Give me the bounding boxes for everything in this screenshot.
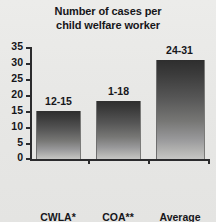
bar-label-coa-standard: 1-18: [91, 85, 146, 97]
x-axis-tick-1: [88, 159, 90, 164]
y-axis-tick-10: 10: [26, 127, 31, 129]
y-axis-tick-0: 0: [26, 158, 31, 160]
y-axis-tick-label-20: 20: [11, 88, 23, 100]
y-axis-tick-label-5: 5: [17, 136, 23, 148]
x-axis-tick-2: [148, 159, 150, 164]
y-axis-tick-25: 25: [26, 79, 31, 81]
y-axis-tick-label-30: 30: [11, 56, 23, 68]
bar-cwla-standard[interactable]: [36, 111, 81, 159]
chart-title-line-1: Number of cases per: [0, 4, 216, 18]
y-axis-tick-30: 30: [26, 63, 31, 65]
chart-title-line-2: child welfare worker: [0, 18, 216, 32]
bar-label-cwla-standard: 12-15: [31, 95, 86, 107]
y-axis-tick-35: 35: [26, 47, 31, 49]
bar-label-average-caseload: 24-31: [152, 44, 207, 56]
x-axis-tick-3: [208, 159, 210, 164]
x-axis-label-cwla-line-1: CWLA*: [24, 211, 92, 222]
bar-average-caseload[interactable]: [156, 60, 205, 159]
x-axis-label-coa-standard: COA** standard: [84, 211, 152, 222]
x-axis-label-average-caseload: Average caseload per worker: [144, 211, 216, 222]
x-axis-label-cwla-standard: CWLA* standard: [24, 211, 92, 222]
y-axis-tick-label-15: 15: [11, 104, 23, 116]
x-axis-label-coa-line-1: COA**: [84, 211, 152, 222]
y-axis-tick-5: 5: [26, 143, 31, 145]
bar-coa-standard[interactable]: [96, 101, 141, 159]
x-axis-spine: [30, 159, 210, 161]
x-axis-label-average-line-1: Average: [144, 211, 216, 222]
y-axis-tick-label-10: 10: [11, 120, 23, 132]
chart-title: Number of cases per child welfare worker: [0, 4, 216, 32]
y-axis-tick-label-0: 0: [17, 151, 23, 163]
plot-area: 35 30 25 20 15 10 5 0 12-15: [30, 47, 210, 159]
y-axis-tick-label-25: 25: [11, 72, 23, 84]
y-axis-tick-label-35: 35: [11, 40, 23, 52]
bar-chart-figure: Number of cases per child welfare worker…: [0, 0, 216, 222]
y-axis-tick-15: 15: [26, 111, 31, 113]
